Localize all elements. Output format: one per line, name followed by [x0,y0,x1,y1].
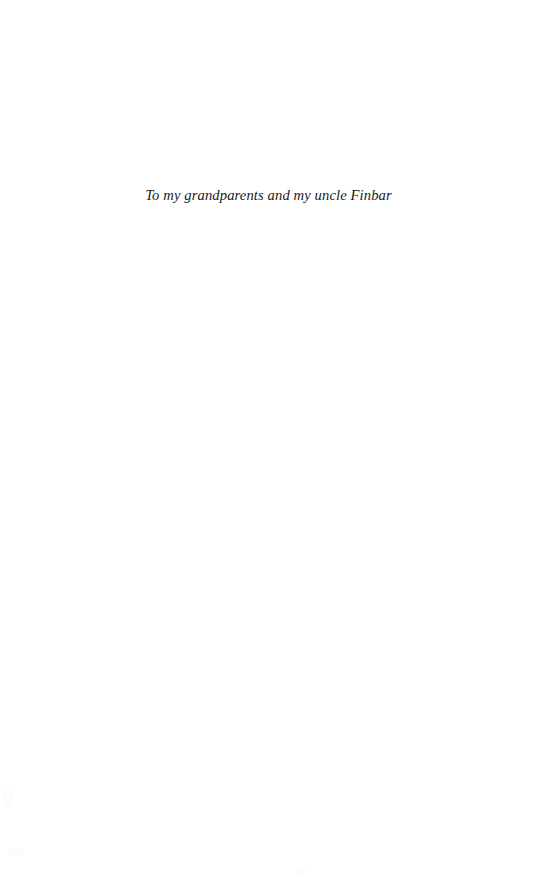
dedication-text: To my grandparents and my uncle Finbar [145,185,392,205]
blank-page-body [0,210,537,876]
dedication-block: To my grandparents and my uncle Finbar [0,184,537,206]
dedication-page: To my grandparents and my uncle Finbar [0,0,537,876]
